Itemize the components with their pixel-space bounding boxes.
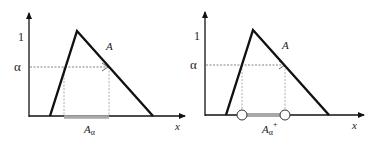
set-label-A: A [105, 40, 113, 52]
x-axis-label: x [351, 119, 357, 131]
y-tick-one: 1 [18, 30, 24, 44]
svg-text:Aα: Aα [83, 123, 96, 137]
cut-label-sub: α [91, 128, 96, 137]
cut-label: Aα+ [261, 120, 278, 137]
membership-function-A [226, 30, 329, 115]
alpha-cut-diagram: 1 α A x Aα 1 α A x Aα+ [0, 0, 383, 143]
open-endpoint-right [280, 110, 290, 120]
y-tick-one: 1 [194, 29, 200, 43]
cut-label: Aα [83, 123, 96, 137]
svg-text:Aα+: Aα+ [261, 120, 278, 137]
panel-alpha-cut: 1 α A x Aα [14, 13, 185, 137]
set-label-A: A [281, 39, 289, 51]
panel-strong-alpha-cut: 1 α A x Aα+ [190, 12, 364, 137]
cut-label-sub: α [269, 128, 274, 137]
alpha-label: α [190, 57, 197, 72]
open-endpoint-left [237, 110, 247, 120]
alpha-label: α [14, 59, 21, 74]
membership-function-A [50, 31, 153, 116]
cut-label-sup: + [273, 120, 278, 129]
x-axis-label: x [174, 120, 180, 132]
